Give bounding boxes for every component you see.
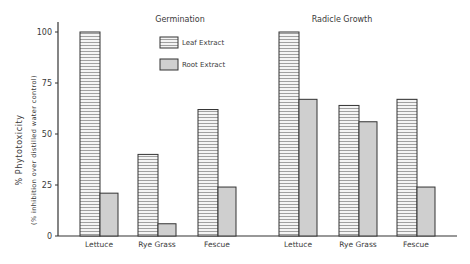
bar-germination-rye-grass-leaf <box>138 154 158 236</box>
legend-label-root: Root Extract <box>182 61 225 69</box>
bar-radicle-growth-rye-grass-root <box>359 122 377 236</box>
bar-germination-rye-grass-root <box>158 224 176 236</box>
legend-swatch-leaf <box>160 37 178 48</box>
bar-germination-lettuce-root <box>100 193 118 236</box>
y-tick-label: 50 <box>42 130 52 139</box>
legend: Leaf Extract Root Extract <box>160 37 225 70</box>
legend-label-leaf: Leaf Extract <box>182 39 224 47</box>
phytotoxicity-chart: 0255075100 % Phytotoxicity (% inhibition… <box>0 0 470 264</box>
x-label-lettuce: Lettuce <box>85 240 113 249</box>
y-axis-sublabel: (% inhibition over distilled water contr… <box>30 75 38 225</box>
x-label-fescue: Fescue <box>403 240 429 249</box>
y-tick-label: 100 <box>37 28 52 37</box>
bar-germination-fescue-root <box>218 187 236 236</box>
panel-title-germination: Germination <box>155 15 205 24</box>
bar-radicle-growth-lettuce-root <box>299 99 317 236</box>
y-ticks: 0255075100 <box>37 28 58 241</box>
bar-germination-fescue-leaf <box>198 110 218 236</box>
y-tick-label: 75 <box>42 79 52 88</box>
panel-title-radicle-growth: Radicle Growth <box>312 15 373 24</box>
x-label-fescue: Fescue <box>204 240 230 249</box>
bars <box>80 32 435 236</box>
x-label-rye-grass: Rye Grass <box>339 240 377 249</box>
x-label-rye-grass: Rye Grass <box>138 240 176 249</box>
y-tick-label: 25 <box>42 181 52 190</box>
y-axis-label: % Phytotoxicity <box>15 114 24 185</box>
bar-radicle-growth-rye-grass-leaf <box>339 105 359 236</box>
bar-germination-lettuce-leaf <box>80 32 100 236</box>
y-tick-label: 0 <box>47 232 52 241</box>
x-labels: LettuceRye GrassFescueLettuceRye GrassFe… <box>85 240 429 249</box>
bar-radicle-growth-fescue-root <box>417 187 435 236</box>
legend-swatch-root <box>160 59 178 70</box>
bar-radicle-growth-lettuce-leaf <box>279 32 299 236</box>
bar-radicle-growth-fescue-leaf <box>397 99 417 236</box>
x-label-lettuce: Lettuce <box>284 240 312 249</box>
